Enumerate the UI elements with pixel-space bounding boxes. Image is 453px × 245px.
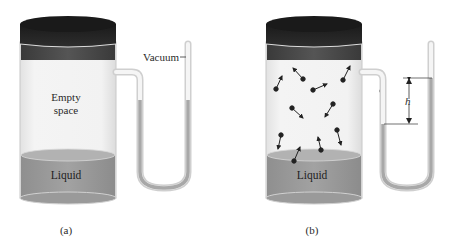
manometer-a [116,44,188,188]
vapor-pressure-diagram [0,0,453,245]
liquid-label-a: Liquid [51,170,82,182]
height-label: h [405,96,411,107]
empty-space-label-line1: Empty [51,92,80,103]
panel-b [266,16,432,204]
mercury-a [140,100,188,188]
caption-a: (a) [60,225,72,236]
manometer-b [362,44,432,188]
liquid-label-b: Liquid [297,170,328,182]
vacuum-label: Vacuum [143,52,179,63]
panel-a [20,16,188,204]
caption-b: (b) [306,225,319,236]
empty-space-label-line2: space [54,105,78,116]
